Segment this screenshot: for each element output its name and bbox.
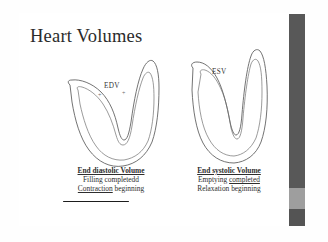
- end-diastolic-caption-line-3-rest: beginning: [113, 184, 144, 193]
- end-diastolic-caption: End diastolic Volume Filling completedd …: [50, 166, 172, 194]
- end-systolic-caption-line-2-prefix: Emptying: [198, 175, 229, 184]
- end-systolic-caption-line-3: Relaxation beginning: [170, 184, 288, 193]
- page-title: Heart Volumes: [30, 26, 142, 47]
- end-diastolic-caption-line-3-underlined: Contraction: [78, 184, 113, 193]
- slide-right-edge-band-lower-segment: [289, 209, 305, 226]
- end-diastolic-caption-heading: End diastolic Volume: [50, 166, 172, 175]
- end-diastolic-caption-line-3: Contraction beginning: [50, 184, 172, 193]
- end-systolic-caption-line-2-underlined: completed: [229, 175, 260, 184]
- slide-right-edge-band-light-segment: [289, 188, 305, 209]
- edv-label: EDV: [104, 82, 120, 90]
- end-diastolic-ventricle-diagram: [58, 52, 170, 168]
- end-diastolic-caption-line-2: Filling completedd: [50, 175, 172, 184]
- esv-label: ESV: [212, 68, 226, 76]
- contraction-heavy-underline: [63, 201, 129, 203]
- edv-tick-right-marker: +: [122, 90, 125, 96]
- end-systolic-caption-heading: End systolic Volume: [170, 166, 288, 175]
- edv-tick-left-marker: +: [98, 92, 101, 98]
- end-systolic-caption: End systolic Volume Emptying completed R…: [170, 166, 288, 194]
- end-systolic-ventricle-diagram: [183, 46, 283, 164]
- slide-scan-image: Heart Volumes EDV + + ESV End diastolic …: [0, 0, 328, 242]
- end-systolic-caption-line-2: Emptying completed: [170, 175, 288, 184]
